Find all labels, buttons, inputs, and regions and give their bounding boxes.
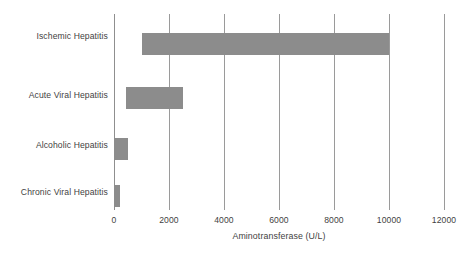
plot-area — [114, 14, 444, 210]
bar-row-alcoholic-hepatitis — [114, 127, 444, 171]
category-label-alcoholic-hepatitis: Alcoholic Hepatitis — [0, 140, 108, 150]
bar-row-ischemic-hepatitis — [114, 22, 444, 66]
bar-acute-viral-hepatitis — [126, 87, 182, 109]
x-axis-title: Aminotransferase (U/L) — [114, 231, 444, 241]
category-label-ischemic-hepatitis: Ischemic Hepatitis — [0, 31, 108, 41]
category-label-acute-viral-hepatitis: Acute Viral Hepatitis — [0, 90, 108, 100]
bar-chronic-viral-hepatitis — [114, 185, 120, 207]
category-label-chronic-viral-hepatitis: Chronic Viral Hepatitis — [0, 187, 108, 197]
bar-ischemic-hepatitis — [142, 33, 390, 55]
gridline-12000 — [444, 14, 445, 210]
bar-row-chronic-viral-hepatitis — [114, 174, 444, 218]
bar-alcoholic-hepatitis — [114, 138, 128, 160]
bar-chart: 0 2000 4000 6000 8000 10000 12000 Ischem… — [0, 0, 469, 266]
bar-row-acute-viral-hepatitis — [114, 76, 444, 120]
